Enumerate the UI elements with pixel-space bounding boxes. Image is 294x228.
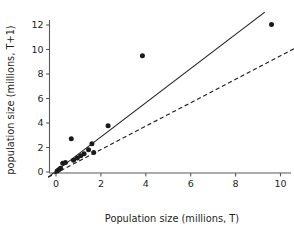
x-axis-title: Population size (millions, T)	[105, 213, 239, 224]
x-tick-label-0: 0	[53, 178, 59, 189]
data-point	[58, 166, 63, 171]
x-tick-label-8: 8	[233, 178, 239, 189]
data-point	[89, 141, 94, 146]
y-axis-title: population size (millions, T+1)	[5, 25, 16, 174]
x-tick-label-6: 6	[188, 178, 194, 189]
scatter-plot-figure: 024681012 0246810 Population size (milli…	[0, 0, 294, 228]
data-point	[269, 22, 274, 27]
data-point	[63, 160, 68, 165]
data-point	[106, 123, 111, 128]
data-point-series	[55, 22, 274, 174]
data-point	[69, 136, 74, 141]
data-point	[140, 53, 145, 58]
y-tick-label-8: 8	[37, 68, 43, 79]
replacement-reference-line	[48, 47, 294, 177]
x-tick-label-2: 2	[98, 178, 104, 189]
x-tick-label-10: 10	[274, 178, 286, 189]
y-tick-label-4: 4	[37, 117, 43, 128]
x-axis-tick-labels: 0246810	[53, 178, 287, 189]
fitted-regression-line	[48, 12, 265, 177]
data-point	[91, 150, 96, 155]
data-point	[86, 147, 91, 152]
x-tick-label-4: 4	[143, 178, 149, 189]
y-tick-label-12: 12	[31, 19, 43, 30]
data-point	[82, 151, 87, 156]
y-tick-label-0: 0	[37, 166, 43, 177]
chart-canvas: 024681012 0246810 Population size (milli…	[0, 0, 294, 228]
y-tick-label-2: 2	[37, 142, 43, 153]
y-axis-tick-labels: 024681012	[31, 19, 43, 177]
y-tick-label-6: 6	[37, 93, 43, 104]
y-tick-label-10: 10	[31, 44, 43, 55]
